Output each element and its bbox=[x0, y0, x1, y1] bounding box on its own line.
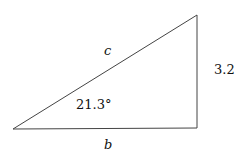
adjacent-side-label: b bbox=[104, 138, 112, 151]
triangle-figure bbox=[0, 0, 247, 160]
opposite-side-label: 3.2 bbox=[214, 63, 235, 76]
angle-label: 21.3° bbox=[76, 98, 111, 111]
hypotenuse-label: c bbox=[104, 44, 111, 57]
